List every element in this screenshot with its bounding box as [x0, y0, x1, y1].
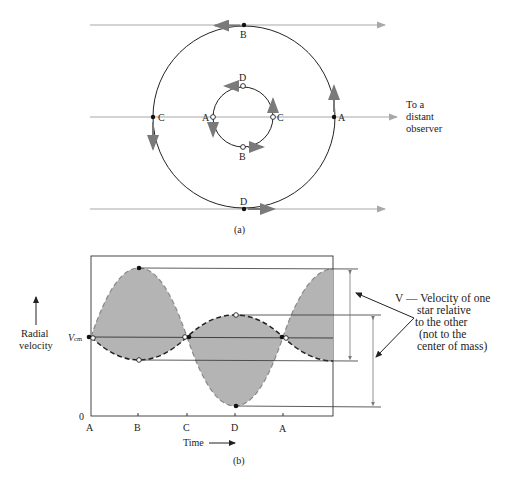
outer-label-left: C [158, 112, 165, 123]
annotation-line1: V — Velocity of one [395, 292, 507, 304]
x-tick-label-0: A [86, 422, 94, 433]
x-tick-label-2: C [183, 422, 190, 433]
inner-label-left: A [202, 112, 210, 123]
annotation-line2: star relative [395, 304, 507, 316]
annotation-line3: to the other [395, 316, 507, 328]
observer-label-line2: distant [406, 111, 434, 122]
marker-b-open [137, 358, 142, 363]
outer-label-right: A [338, 112, 346, 123]
annotation-line5: center of mass) [395, 340, 507, 352]
outer-star-d [242, 207, 246, 211]
observer-label-line3: observer [406, 123, 443, 134]
velocity-annotation: V — Velocity of one star relative to the… [395, 292, 507, 352]
velocity-chart: A B C D A 0 Time Radial velocity Vcm (b) [19, 256, 414, 467]
outer-star-c [151, 115, 155, 119]
ext-line-d-min [235, 406, 381, 407]
outer-star-a [332, 115, 336, 119]
ext-line-b-max [139, 268, 358, 269]
orbit-diagram: B C A D D A C B To a distant observer (a… [90, 23, 443, 236]
inner-label-bottom: B [239, 151, 246, 162]
inner-star-c [271, 115, 276, 120]
annotation-line4: (not to the [395, 328, 507, 340]
outer-star-b [242, 23, 246, 27]
marker-d-open [234, 313, 239, 318]
outer-label-top: B [240, 29, 247, 40]
observer-label-line1: To a [406, 99, 425, 110]
caption-b: (b) [233, 455, 245, 467]
marker-c-open [183, 335, 188, 340]
x-axis-label: Time [183, 437, 204, 448]
zero-label: 0 [79, 411, 84, 422]
marker-c-filled [187, 335, 192, 340]
vcm-label: Vcm [68, 332, 82, 343]
inner-star-d [241, 84, 246, 89]
x-tick-label-4: A [279, 423, 287, 434]
inner-star-b [241, 145, 246, 150]
outer-label-bottom: D [240, 196, 247, 207]
marker-d-filled [234, 404, 239, 409]
y-axis-label-line1: Radial [21, 328, 48, 339]
caption-a: (a) [234, 224, 245, 236]
binary-star-figure: B C A D D A C B To a distant observer (a… [0, 0, 509, 484]
y-axis-label-line2: velocity [19, 340, 54, 351]
marker-a-open [91, 336, 96, 341]
x-tick-label-1: B [134, 422, 141, 433]
marker-b-filled [137, 266, 142, 271]
marker-a2-open [284, 336, 289, 341]
inner-label-right: C [277, 112, 284, 123]
inner-star-a [211, 115, 216, 120]
x-tick-label-3: D [231, 422, 238, 433]
inner-label-top: D [239, 72, 246, 83]
